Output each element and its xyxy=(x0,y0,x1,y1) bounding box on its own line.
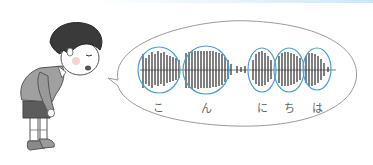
bowing-boy xyxy=(21,23,102,150)
syllable-label-ha: は xyxy=(312,99,323,115)
syllable-label-n: ん xyxy=(201,99,212,115)
illustration xyxy=(0,0,373,165)
syllable-label-ni: に xyxy=(257,99,268,115)
syllable-label-chi: ち xyxy=(284,99,295,115)
syllable-label-ko: こ xyxy=(153,99,164,115)
